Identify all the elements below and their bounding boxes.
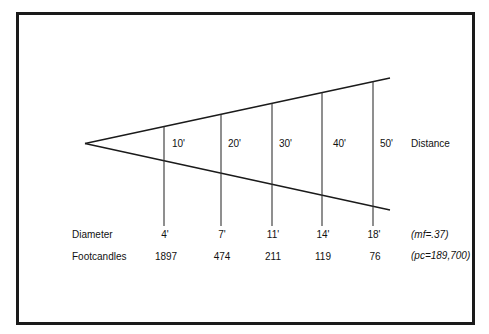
- diameter-value: 11': [267, 229, 279, 241]
- light-beam-cone-diagram: [0, 0, 489, 334]
- pc-note: (pc=189,700): [411, 250, 470, 262]
- footcandles-value: 1897: [155, 251, 177, 263]
- beam-upper-edge: [85, 78, 390, 144]
- diameter-value: 18': [367, 229, 380, 241]
- footcandles-label: Footcandles: [72, 251, 126, 263]
- footcandles-value: 474: [214, 251, 231, 263]
- footcandles-value: 211: [265, 251, 281, 263]
- distance-value: 20': [228, 138, 241, 150]
- footcandles-value: 119: [315, 251, 331, 263]
- diameter-value: 4': [161, 229, 168, 241]
- mf-note: (mf=.37): [411, 229, 449, 241]
- diameter-label: Diameter: [72, 229, 113, 241]
- distance-value: 10': [172, 138, 185, 150]
- beam-lower-edge: [85, 144, 390, 211]
- diameter-value: 14': [316, 229, 329, 241]
- distance-value: 50': [380, 138, 393, 150]
- diameter-value: 7': [218, 229, 225, 241]
- distance-value: 30': [279, 138, 292, 150]
- distance-label: Distance: [411, 138, 450, 150]
- distance-value: 40': [333, 138, 346, 150]
- footcandles-value: 76: [369, 251, 380, 263]
